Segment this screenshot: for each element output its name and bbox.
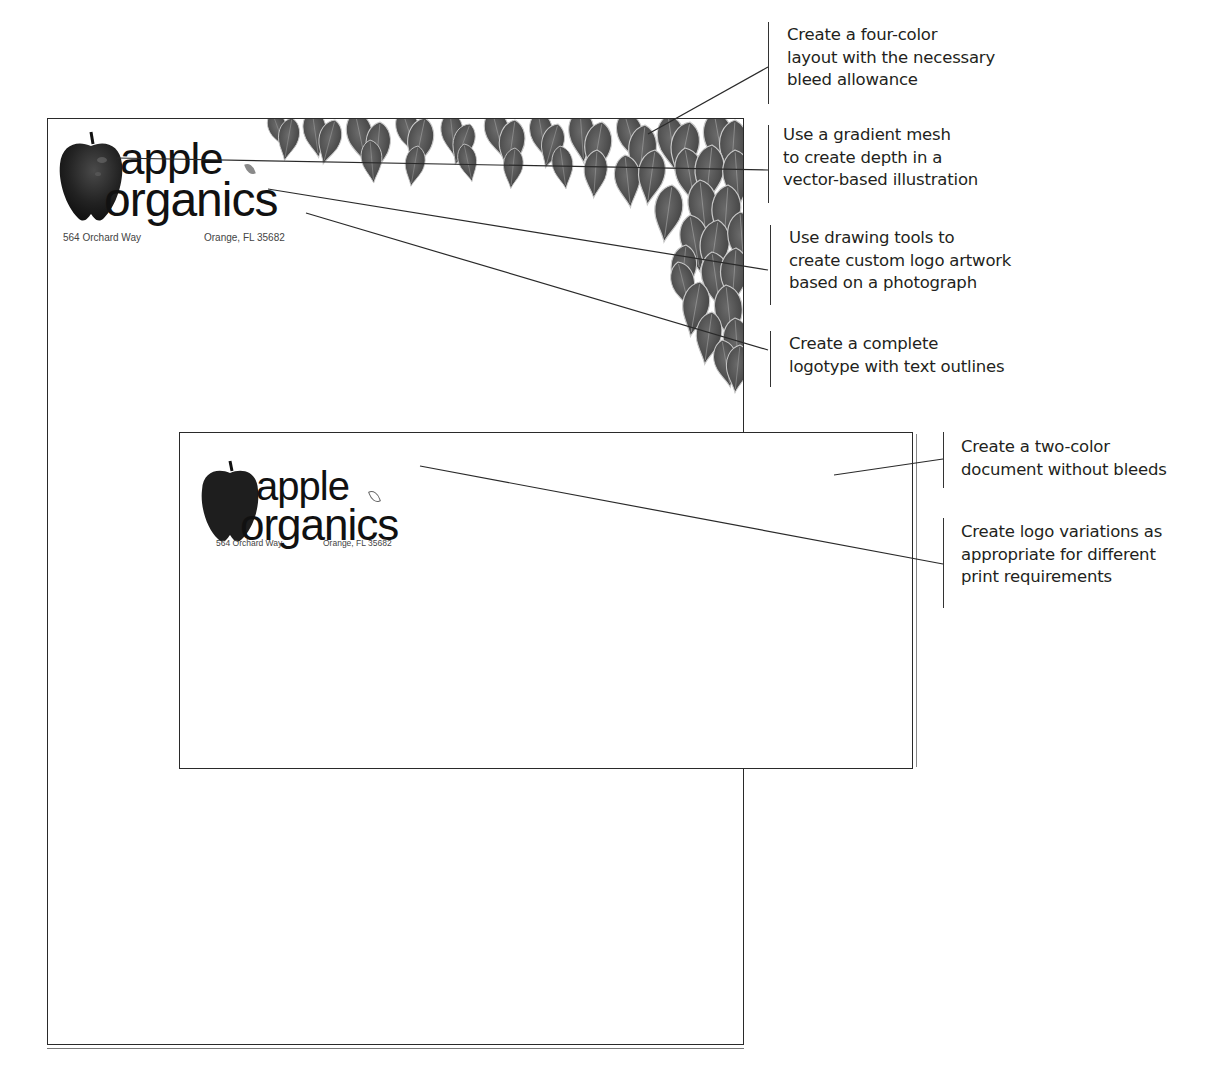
callout-line: Use a gradient mesh — [783, 124, 978, 147]
callout-bracket-four-color — [768, 22, 769, 104]
callout-bracket-logo-variations — [943, 518, 944, 608]
callout-line: logotype with text outlines — [789, 356, 1004, 379]
callout-line: bleed allowance — [787, 69, 995, 92]
callout-line: based on a photograph — [789, 272, 1011, 295]
callout-line: Create logo variations as — [961, 521, 1162, 544]
callout-line: print requirements — [961, 566, 1162, 589]
callout-line: create custom logo artwork — [789, 250, 1011, 273]
callout-line: layout with the necessary — [787, 47, 995, 70]
envelope-address-street: 564 Orchard Way — [216, 538, 282, 548]
letterhead-logo-organics: organics — [104, 176, 277, 224]
callout-bracket-drawing-tools — [770, 225, 771, 305]
callout-line: Use drawing tools to — [789, 227, 1011, 250]
callout-line: Create a four-color — [787, 24, 995, 47]
envelope-address-city: Orange, FL 35682 — [323, 538, 392, 548]
callout-two-color: Create a two-color document without blee… — [961, 436, 1167, 481]
letterhead-address-city: Orange, FL 35682 — [204, 232, 285, 243]
callout-bracket-two-color — [943, 432, 944, 488]
callout-four-color: Create a four-color layout with the nece… — [787, 24, 995, 92]
callout-bracket-gradient-mesh — [768, 125, 769, 203]
callout-drawing-tools: Use drawing tools to create custom logo … — [789, 227, 1011, 295]
callout-line: to create depth in a — [783, 147, 978, 170]
letterhead-address-street: 564 Orchard Way — [63, 232, 141, 243]
callout-line: document without bleeds — [961, 459, 1167, 482]
callout-bracket-logotype — [770, 331, 771, 387]
callout-gradient-mesh: Use a gradient mesh to create depth in a… — [783, 124, 978, 192]
callout-line: Create a complete — [789, 333, 1004, 356]
callout-line: Create a two-color — [961, 436, 1167, 459]
callout-logo-variations: Create logo variations as appropriate fo… — [961, 521, 1162, 589]
callout-line: appropriate for different — [961, 544, 1162, 567]
envelope-edge — [913, 434, 917, 767]
letterhead-page-edge — [47, 1043, 744, 1049]
callout-logotype: Create a complete logotype with text out… — [789, 333, 1004, 378]
callout-line: vector-based illustration — [783, 169, 978, 192]
